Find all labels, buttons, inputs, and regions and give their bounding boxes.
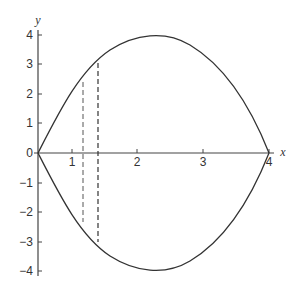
x-axis-label: x (279, 145, 286, 159)
x-tick-label: 1 (69, 155, 76, 169)
y-tick-label: −1 (19, 176, 33, 190)
x-tick-labels: 1 2 3 4 (69, 155, 273, 169)
x-tick-label: 2 (134, 155, 141, 169)
y-tick-label: −2 (19, 205, 33, 219)
chart: 4 3 2 1 0 −1 −2 −3 −4 1 2 3 4 y x (0, 0, 300, 293)
lower-curve (38, 153, 269, 270)
y-tick-label: 3 (26, 57, 33, 71)
y-tick-label: 1 (26, 116, 33, 130)
y-tick-label: 2 (26, 87, 33, 101)
upper-curve (38, 36, 269, 153)
y-axis-label: y (34, 13, 41, 27)
y-tick-labels: 4 3 2 1 0 −1 −2 −3 −4 (19, 28, 33, 278)
y-tick-label: −4 (19, 264, 33, 278)
y-tick-label: 4 (26, 28, 33, 42)
x-tick-label: 3 (200, 155, 207, 169)
y-tick-label: −3 (19, 235, 33, 249)
y-tick-label: 0 (26, 146, 33, 160)
